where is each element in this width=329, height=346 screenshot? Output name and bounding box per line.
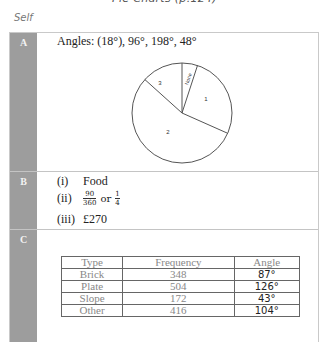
cell-angle: 104° — [234, 305, 299, 317]
section-c: C Type Frequency Angle Brick 348 87° Pla… — [10, 229, 318, 346]
table-row: Plate 504 126° — [62, 281, 300, 293]
cell-frequency: 348 — [123, 269, 234, 281]
b-item-ii: (ii) 90 360 or 1 4 — [57, 190, 120, 207]
b-item-ii-num: (ii) — [57, 191, 83, 206]
header-type: Type — [62, 257, 123, 269]
table-header-row: Type Frequency Angle — [62, 257, 300, 269]
cell-type: Plate — [62, 281, 123, 293]
cell-type: Slope — [62, 293, 123, 305]
b-item-i-num: (i) — [57, 174, 83, 189]
section-a: A Angles: (18°), 96°, 198°, 48° None 1 2… — [10, 33, 318, 171]
fraction-denominator: 360 — [83, 199, 96, 207]
answer-sheet: A Angles: (18°), 96°, 198°, 48° None 1 2… — [9, 32, 319, 342]
fraction-1-4: 1 4 — [115, 190, 119, 207]
b-item-iii-text: £270 — [83, 212, 107, 227]
section-b-letter: B — [10, 176, 37, 187]
cell-angle: 87° — [234, 269, 299, 281]
cell-frequency: 416 — [123, 305, 234, 317]
cell-angle: 126° — [234, 281, 299, 293]
cell-angle: 43° — [234, 293, 299, 305]
b-item-i: (i) Food — [57, 174, 108, 189]
cell-type: Brick — [62, 269, 123, 281]
page-title: Pie Charts (p.124) — [0, 0, 329, 5]
fraction-denominator: 4 — [115, 199, 119, 207]
table-row: Brick 348 87° — [62, 269, 300, 281]
b-item-i-text: Food — [83, 174, 108, 189]
pie-chart: None 1 2 3 — [10, 33, 320, 171]
self-label: Self — [14, 12, 33, 23]
b-item-iii: (iii) £270 — [57, 212, 107, 227]
cell-type: Other — [62, 305, 123, 317]
b-item-iii-num: (iii) — [57, 212, 83, 227]
fraction-90-360: 90 360 — [83, 190, 96, 207]
or-text: or — [100, 193, 111, 204]
header-frequency: Frequency — [123, 257, 234, 269]
section-c-letter: C — [10, 234, 37, 245]
fraction-numerator: 90 — [85, 190, 94, 198]
table-row: Slope 172 43° — [62, 293, 300, 305]
cell-frequency: 172 — [123, 293, 234, 305]
frequency-table: Type Frequency Angle Brick 348 87° Plate… — [61, 256, 300, 317]
header-angle: Angle — [234, 257, 299, 269]
table-row: Other 416 104° — [62, 305, 300, 317]
cell-frequency: 504 — [123, 281, 234, 293]
section-b: B (i) Food (ii) 90 360 or 1 4 (iii) £270 — [10, 171, 318, 229]
fraction-numerator: 1 — [115, 190, 119, 198]
